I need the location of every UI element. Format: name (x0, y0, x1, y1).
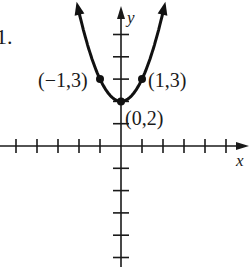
curve-arrow-icon (158, 2, 168, 16)
axes (0, 6, 249, 267)
point-marker (138, 75, 146, 83)
point-label: (−1,3) (38, 69, 88, 92)
point-marker (117, 97, 125, 105)
y-axis-arrow-icon (117, 6, 125, 19)
point-label: (1,3) (148, 69, 186, 92)
x-axis-arrow-icon (236, 142, 249, 150)
curve-arrow-icon (75, 2, 85, 16)
x-axis-label: x (235, 151, 244, 170)
y-axis-label: y (125, 8, 135, 27)
point-label: (0,2) (125, 107, 163, 130)
point-marker (96, 75, 104, 83)
labeled-points: (−1,3)(0,2)(1,3) (38, 69, 186, 130)
parabola-graph: (−1,3)(0,2)(1,3) x y (0, 0, 250, 267)
